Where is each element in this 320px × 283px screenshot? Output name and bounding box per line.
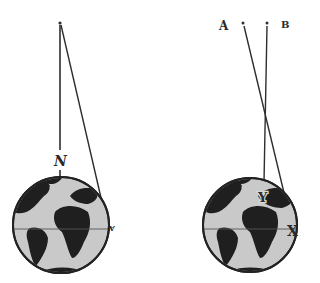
right-figure: A B Y Y X [203,19,298,280]
left-source-point [58,21,61,24]
point-a [242,22,245,25]
pole-label-n: N [53,153,68,169]
label-b: B [281,19,289,30]
edge-label-a-left: A [108,224,116,234]
point-b [266,22,269,25]
label-a: A [218,19,229,33]
label-x: X [287,223,298,239]
left-figure: N A [13,21,116,280]
line-from-b [264,26,267,182]
diagram-canvas: N A A B [0,0,320,283]
left-globe [13,172,109,280]
label-y: Y [257,190,268,205]
